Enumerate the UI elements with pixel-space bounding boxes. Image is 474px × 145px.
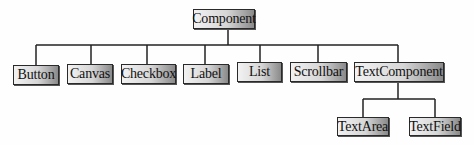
node-button: Button bbox=[13, 65, 59, 85]
class-hierarchy-diagram: Component Button Canvas Checkbox Label L… bbox=[0, 0, 474, 145]
node-canvas: Canvas bbox=[67, 64, 113, 84]
node-component: Component bbox=[193, 9, 255, 29]
node-list: List bbox=[237, 62, 282, 82]
node-scrollbar: Scrollbar bbox=[290, 62, 347, 82]
node-checkbox: Checkbox bbox=[121, 64, 176, 84]
node-label: Label bbox=[183, 64, 229, 84]
node-textcomponent: TextComponent bbox=[354, 62, 444, 82]
node-textfield: TextField bbox=[409, 117, 461, 136]
node-textarea: TextArea bbox=[337, 117, 389, 136]
